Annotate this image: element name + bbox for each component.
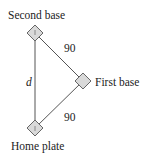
first-base-label: First base [95,77,139,89]
second-base-label: Second base [8,10,65,22]
home-plate-label: Home plate [11,141,64,153]
side-length-top-label: 90 [64,43,76,55]
side-length-bottom-label: 90 [64,112,76,124]
diagonal-d-label: d [26,77,32,89]
line-second-to-first [35,33,83,81]
